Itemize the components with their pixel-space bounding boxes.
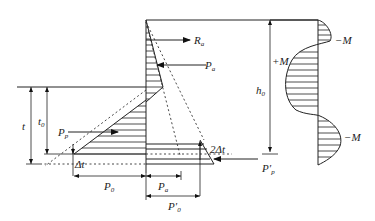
passive-pressure-triangle (74, 100, 146, 154)
wall (146, 20, 318, 173)
label-Ra: Ra (193, 34, 205, 48)
label-minus-M-top: −M (335, 34, 352, 46)
label-two-delta-t: 2Δt (210, 143, 226, 155)
moment-hatch (286, 25, 341, 157)
passive-slope-line (74, 100, 146, 154)
label-minus-M-bottom: −M (344, 131, 361, 143)
earth-pressure-diagram: Ra Pa h0 +M −M −M t t0 Pp Δt 2Δt P′p P0 … (0, 0, 375, 221)
label-plus-M: +M (272, 55, 289, 67)
passive-hatch (74, 106, 146, 154)
label-delta-t: Δt (74, 158, 85, 170)
active-return-line (146, 87, 163, 102)
bending-moment-diagram (270, 20, 341, 165)
toe-pressure-block (146, 140, 214, 164)
label-h0: h0 (256, 84, 266, 98)
label-P0-prime: P′0 (167, 200, 181, 214)
label-t: t (22, 120, 26, 132)
label-Pp-prime: P′p (261, 162, 275, 176)
label-Pp: Pp (57, 126, 69, 140)
label-Pa-top: Pa (204, 59, 216, 73)
active-hatch (146, 27, 163, 99)
label-P0: P0 (103, 180, 115, 194)
label-Pa-dim: Pa (157, 180, 169, 194)
label-t0: t0 (38, 115, 45, 129)
moment-curve (286, 20, 341, 165)
